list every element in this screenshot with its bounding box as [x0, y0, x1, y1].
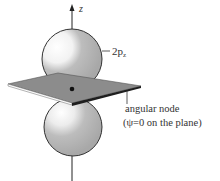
- lower-lobe: [44, 98, 102, 156]
- nucleus-dot: [70, 87, 75, 92]
- node-label-line1: angular node: [125, 103, 180, 114]
- nodal-plane: [8, 73, 141, 106]
- orbital-label-subscript: z: [123, 51, 126, 59]
- node-label-line2: (ψ=0 on the plane): [123, 117, 202, 129]
- orbital-label: 2pz: [112, 45, 126, 59]
- z-axis-arrow-icon: [70, 4, 75, 11]
- z-axis-label: z: [78, 3, 83, 14]
- orbital-diagram: z 2pz angular node (ψ=0 on the plane): [0, 0, 220, 181]
- orbital-label-main: 2p: [112, 45, 124, 57]
